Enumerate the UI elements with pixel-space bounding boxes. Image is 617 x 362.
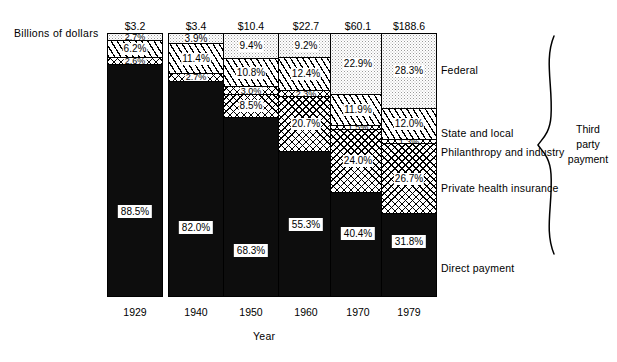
- segment-label: 8.5%: [239, 100, 264, 112]
- segment-label: 55.3%: [289, 218, 323, 231]
- segment-label: 9.4%: [239, 40, 264, 52]
- segment-state-local-1950: 10.8%: [224, 59, 278, 88]
- segment-private-insurance-1960: 20.7%: [279, 97, 333, 152]
- segment-philanthropy-1929: 2.6%: [108, 58, 162, 65]
- segment-state-local-1940: 11.4%: [169, 44, 223, 74]
- bar-group-1940: $3.4 3.9% 11.4% 2.7% 82.0% 1940: [165, 20, 227, 320]
- segment-label: 20.7%: [291, 118, 321, 130]
- segment-label: 2.7%: [185, 74, 208, 81]
- segment-state-local-1970: 11.9%: [331, 95, 385, 126]
- segment-label: 6.2%: [123, 43, 148, 55]
- segment-label: 3.9%: [184, 34, 209, 44]
- segment-label: 24.0%: [343, 155, 373, 167]
- x-tick-1929: 1929: [104, 306, 166, 318]
- segment-label: 40.4%: [341, 227, 375, 240]
- segment-direct-payment-1970: 40.4%: [331, 193, 385, 296]
- y-axis-title: Billions of dollars: [14, 27, 99, 39]
- segment-label: 12.4%: [291, 68, 321, 80]
- segment-federal-1929: 2.7%: [108, 34, 162, 41]
- bar-stack-1960: 9.2% 12.4% 2.3% 20.7% 55.3%: [278, 33, 334, 297]
- bar-group-1929: $3.2 2.7% 6.2% 2.6% 88.5% 1929: [104, 20, 166, 320]
- segment-direct-payment-1979: 31.8%: [382, 214, 436, 296]
- segment-direct-payment-1940: 82.0%: [169, 82, 223, 296]
- legend-label-state-and-local: State and local: [441, 127, 513, 139]
- brace-line-1: Third: [556, 122, 617, 137]
- segment-federal-1950: 9.4%: [224, 34, 278, 59]
- third-party-payment-caption: Third party payment: [556, 122, 617, 168]
- segment-state-local-1979: 12.0%: [382, 109, 436, 141]
- segment-federal-1960: 9.2%: [279, 34, 333, 58]
- x-tick-1940: 1940: [165, 306, 227, 318]
- legend-label-federal: Federal: [441, 64, 478, 76]
- segment-private-insurance-1950: 8.5%: [224, 95, 278, 117]
- segment-private-insurance-1979: 26.7%: [382, 144, 436, 215]
- segment-label: 9.2%: [294, 40, 319, 52]
- segment-federal-1970: 22.9%: [331, 34, 385, 95]
- segment-direct-payment-1929: 88.5%: [108, 65, 162, 296]
- segment-label: 82.0%: [179, 221, 213, 234]
- x-axis-title: Year: [253, 330, 275, 342]
- bar-group-1979: $188.6 28.3% 12.0% 1.3% 26.7% 31.8% 1979: [378, 20, 440, 320]
- segment-label: 2.6%: [124, 58, 147, 65]
- segment-philanthropy-1940: 2.7%: [169, 74, 223, 81]
- bar-total-1940: $3.4: [165, 20, 227, 32]
- segment-federal-1979: 28.3%: [382, 34, 436, 109]
- segment-label: 12.0%: [394, 118, 424, 130]
- segment-label: 28.3%: [394, 65, 424, 77]
- bar-group-1950: $10.4 9.4% 10.8% 3.0% 8.5% 68.3% 1950: [220, 20, 282, 320]
- segment-direct-payment-1950: 68.3%: [224, 118, 278, 296]
- x-tick-1950: 1950: [220, 306, 282, 318]
- segment-label: 88.5%: [118, 205, 152, 218]
- bar-stack-1940: 3.9% 11.4% 2.7% 82.0%: [168, 33, 224, 297]
- segment-label: 11.4%: [181, 53, 211, 65]
- segment-state-local-1960: 12.4%: [279, 58, 333, 91]
- bar-stack-1950: 9.4% 10.8% 3.0% 8.5% 68.3%: [223, 33, 279, 297]
- segment-label: 11.9%: [343, 104, 373, 116]
- bar-total-1929: $3.2: [104, 20, 166, 32]
- bar-total-1979: $188.6: [378, 20, 440, 32]
- segment-label: 2.7%: [124, 34, 147, 41]
- segment-federal-1940: 3.9%: [169, 34, 223, 44]
- segment-state-local-1929: 6.2%: [108, 41, 162, 57]
- segment-label: 3.0%: [240, 87, 263, 95]
- bar-stack-1929: 2.7% 6.2% 2.6% 88.5%: [107, 33, 163, 297]
- brace-line-3: payment: [556, 152, 617, 167]
- segment-label: 68.3%: [234, 244, 268, 257]
- segment-label: 10.8%: [236, 67, 266, 79]
- bar-stack-1979: 28.3% 12.0% 1.3% 26.7% 31.8%: [381, 33, 437, 297]
- bar-total-1950: $10.4: [220, 20, 282, 32]
- segment-direct-payment-1960: 55.3%: [279, 152, 333, 296]
- segment-private-insurance-1970: 24.0%: [331, 130, 385, 193]
- brace-line-2: party: [556, 137, 617, 152]
- segment-philanthropy-1950: 3.0%: [224, 87, 278, 95]
- x-tick-1979: 1979: [378, 306, 440, 318]
- segment-label: 22.9%: [343, 58, 373, 70]
- stacked-bar-chart: Billions of dollars $3.2 2.7% 6.2% 2.6% …: [0, 0, 617, 362]
- segment-label: 26.7%: [394, 173, 424, 185]
- legend-label-direct-payment: Direct payment: [441, 262, 514, 274]
- segment-label: 31.8%: [392, 235, 426, 248]
